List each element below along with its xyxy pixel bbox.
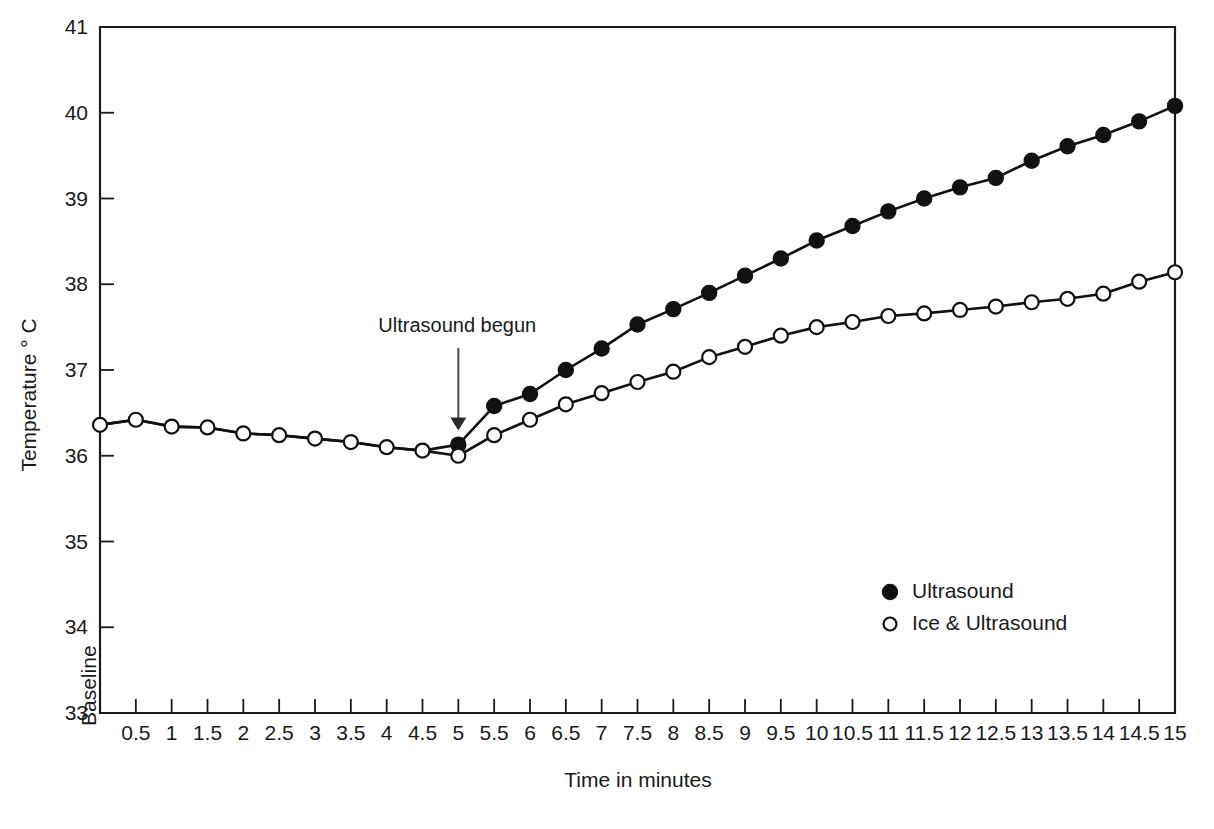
data-point-1-30 (1168, 98, 1183, 113)
chart-page: 333435363738394041 0.511.522.533.544.555… (0, 0, 1214, 829)
data-point-2-9 (416, 444, 430, 458)
data-point-1-20 (809, 233, 824, 248)
x-tick-label: 4.5 (408, 721, 437, 744)
x-tick-label: 10.5 (832, 721, 873, 744)
data-point-2-24 (953, 303, 967, 317)
series-paths (100, 106, 1175, 456)
data-point-2-10 (451, 449, 465, 463)
series-markers (93, 98, 1183, 462)
data-point-2-7 (344, 435, 358, 449)
data-point-2-22 (881, 309, 895, 323)
data-point-2-5 (272, 428, 286, 442)
x-tick-label: 14 (1092, 721, 1116, 744)
annotation-label: Ultrasound begun (378, 314, 536, 336)
x-tick-label: 7 (596, 721, 608, 744)
x-tick-label: 11 (877, 721, 899, 744)
x-tick-label: 11.5 (905, 721, 944, 744)
x-tick-label: 1 (166, 721, 178, 744)
data-point-2-12 (523, 413, 537, 427)
temperature-line-chart: 333435363738394041 0.511.522.533.544.555… (0, 0, 1214, 829)
data-point-2-8 (380, 440, 394, 454)
data-point-2-20 (810, 320, 824, 334)
data-point-2-30 (1168, 265, 1182, 279)
data-point-2-11 (487, 428, 501, 442)
data-point-1-19 (773, 251, 788, 266)
y-axis-title: Temperature ° C (17, 318, 40, 471)
x-tick-label: 10 (805, 721, 828, 744)
y-axis-tick-labels: 333435363738394041 (65, 15, 89, 724)
x-tick-label: 13.5 (1047, 721, 1088, 744)
x-tick-label: 15 (1163, 721, 1186, 744)
y-tick-label: 36 (65, 444, 88, 467)
y-tick-label: 40 (65, 101, 88, 124)
x-tick-label: 6.5 (551, 721, 580, 744)
data-point-2-14 (595, 386, 609, 400)
x-tick-label: 3 (309, 721, 321, 744)
y-tick-label: 35 (65, 530, 88, 553)
page-caption-ghost (8, 815, 12, 827)
legend-label: Ice & Ultrasound (912, 611, 1067, 634)
y-tick-label: 38 (65, 272, 88, 295)
x-tick-label: 3.5 (336, 721, 365, 744)
x-tick-label: 9 (739, 721, 751, 744)
x-tick-label: 12 (948, 721, 971, 744)
x-tick-label: 4 (381, 721, 393, 744)
x-tick-label: 5 (452, 721, 464, 744)
x-axis-tick-labels: 0.511.522.533.544.555.566.577.588.599.51… (121, 721, 1186, 744)
data-point-1-21 (845, 218, 860, 233)
x-axis-baseline-label: Baseline (77, 645, 100, 726)
data-point-1-18 (738, 268, 753, 283)
data-point-1-22 (881, 204, 896, 219)
annotation-ultrasound-begun: Ultrasound begun (378, 314, 536, 431)
data-point-2-0 (93, 418, 107, 432)
data-point-2-15 (631, 375, 645, 389)
x-tick-label: 12.5 (975, 721, 1016, 744)
data-point-2-26 (1025, 295, 1039, 309)
data-point-2-28 (1096, 287, 1110, 301)
x-tick-label: 13 (1020, 721, 1043, 744)
data-point-2-21 (846, 315, 860, 329)
x-tick-label: 7.5 (623, 721, 652, 744)
annotation-arrowhead-icon (450, 418, 466, 431)
data-point-1-28 (1096, 128, 1111, 143)
data-point-1-15 (630, 317, 645, 332)
data-point-2-6 (308, 432, 322, 446)
x-tick-label: 1.5 (193, 721, 222, 744)
data-point-2-29 (1132, 275, 1146, 289)
data-point-2-1 (129, 413, 143, 427)
data-point-1-12 (523, 387, 538, 402)
x-axis-ticks (136, 699, 1175, 713)
data-point-2-19 (774, 329, 788, 343)
x-tick-label: 8 (667, 721, 679, 744)
y-axis-ticks (100, 113, 114, 628)
data-point-2-13 (559, 397, 573, 411)
chart-legend: UltrasoundIce & Ultrasound (883, 579, 1068, 634)
data-point-1-14 (594, 341, 609, 356)
data-point-2-25 (989, 300, 1003, 314)
data-point-1-13 (558, 363, 573, 378)
x-tick-label: 8.5 (695, 721, 724, 744)
data-point-1-26 (1024, 153, 1039, 168)
x-axis-title: Time in minutes (564, 768, 711, 791)
data-point-2-3 (201, 420, 215, 434)
x-tick-label: 2.5 (265, 721, 294, 744)
y-tick-label: 41 (65, 15, 88, 38)
data-point-1-16 (666, 302, 681, 317)
series-line-1 (100, 106, 1175, 451)
y-tick-label: 34 (65, 615, 89, 638)
data-point-1-17 (702, 285, 717, 300)
data-point-1-29 (1132, 114, 1147, 129)
series-line-2 (100, 272, 1175, 456)
data-point-1-11 (487, 399, 502, 414)
x-tick-label: 0.5 (121, 721, 150, 744)
x-tick-label: 6 (524, 721, 536, 744)
legend-marker-open (884, 618, 897, 631)
data-point-1-25 (988, 170, 1003, 185)
x-tick-label: 9.5 (766, 721, 795, 744)
x-tick-label: 14.5 (1119, 721, 1160, 744)
data-point-1-27 (1060, 139, 1075, 154)
data-point-2-2 (165, 420, 179, 434)
data-point-2-16 (666, 365, 680, 379)
y-tick-label: 37 (65, 358, 88, 381)
data-point-2-18 (738, 340, 752, 354)
